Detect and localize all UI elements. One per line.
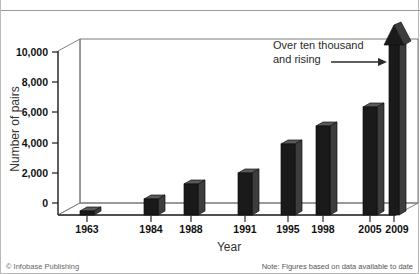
annotation-line-2: and rising xyxy=(273,53,321,65)
bar-1995-front xyxy=(281,144,295,215)
figure-note: Note: Figures based on data available to… xyxy=(262,262,413,271)
annotation-line-1: Over ten thousand xyxy=(273,39,364,51)
bar-2005-side xyxy=(377,103,384,215)
bar-1988-front xyxy=(184,184,198,215)
bar-1988[interactable] xyxy=(184,180,205,215)
y-tick-label-0: 0 xyxy=(42,197,48,209)
bar-1991[interactable] xyxy=(238,169,259,215)
x-label-1998: 1998 xyxy=(311,223,335,235)
bar-1991-side xyxy=(252,169,259,215)
x-axis-title: Year xyxy=(217,240,241,254)
y-tick-label-2000: 2,000 xyxy=(22,167,48,179)
bar-2009-front xyxy=(389,45,399,215)
x-label-1991: 1991 xyxy=(233,223,257,235)
x-label-1988: 1988 xyxy=(179,223,203,235)
chart-plot-area: 0 2,000 4,000 6,000 8,000 10,000 Number … xyxy=(1,11,420,274)
bar-1995-side xyxy=(295,140,302,215)
bar-chart-svg: 0 2,000 4,000 6,000 8,000 10,000 Number … xyxy=(1,11,420,274)
bar-1995[interactable] xyxy=(281,140,302,215)
y-tick-label-10000: 10,000 xyxy=(16,46,48,58)
bar-1963-front xyxy=(80,211,94,215)
bar-2005-front xyxy=(363,107,377,215)
x-label-1984: 1984 xyxy=(139,223,163,235)
bar-1998-side xyxy=(330,122,337,215)
bar-2005[interactable] xyxy=(363,103,384,215)
chart-title-clipped xyxy=(1,0,420,10)
bar-2009-side xyxy=(399,41,406,215)
bar-1988-side xyxy=(198,180,205,215)
y-tick-label-4000: 4,000 xyxy=(22,137,48,149)
x-label-1963: 1963 xyxy=(75,223,99,235)
plot-left-wall xyxy=(58,39,80,215)
bar-1984[interactable] xyxy=(144,195,165,215)
y-axis-title: Number of pairs xyxy=(8,86,22,171)
bar-1984-side xyxy=(158,195,165,215)
bar-1998-front xyxy=(316,126,330,215)
x-label-1995: 1995 xyxy=(276,223,300,235)
bar-1998[interactable] xyxy=(316,122,337,215)
y-tick-label-8000: 8,000 xyxy=(22,76,48,88)
bar-1984-front xyxy=(144,199,158,215)
publisher-credit: © Infobase Publishing xyxy=(6,262,79,271)
y-tick-label-6000: 6,000 xyxy=(22,106,48,118)
x-label-2009: 2009 xyxy=(385,223,409,235)
bar-1991-front xyxy=(238,173,252,215)
x-label-2005: 2005 xyxy=(358,223,382,235)
